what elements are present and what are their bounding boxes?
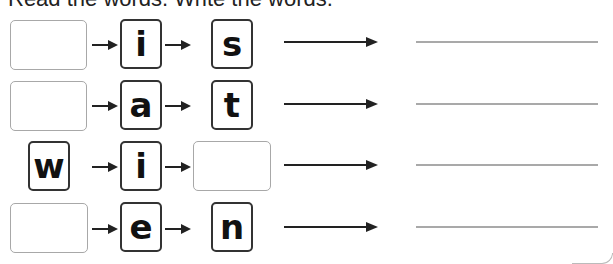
small-arrow-icon [165,39,191,51]
small-arrow-icon [92,161,118,173]
small-arrow-icon [165,100,191,112]
word-row-2: a t [0,80,613,134]
small-arrow-icon [92,100,118,112]
letter-box: a [120,80,162,130]
long-arrow-icon [284,220,380,234]
blank-letter-box[interactable] [10,203,88,253]
word-row-4: e n [0,202,613,256]
long-arrow-icon [284,35,380,49]
write-line[interactable] [416,226,598,228]
letter-box: e [120,202,162,252]
blank-letter-box[interactable] [193,141,271,191]
write-line[interactable] [416,164,598,166]
word-row-3: w i [0,140,613,194]
letter-box: w [28,141,70,191]
small-arrow-icon [165,161,191,173]
write-line[interactable] [416,103,598,105]
long-arrow-icon [284,158,380,172]
small-arrow-icon [165,223,191,235]
page-corner-decoration [572,253,613,264]
letter-box: i [120,141,162,191]
letter-box: n [211,202,253,252]
long-arrow-icon [284,97,380,111]
letter-box: t [211,80,253,130]
write-line[interactable] [416,41,598,43]
small-arrow-icon [92,39,118,51]
word-row-1: i s [0,19,613,73]
letter-box: i [120,19,162,69]
blank-letter-box[interactable] [10,20,87,70]
blank-letter-box[interactable] [10,81,87,131]
small-arrow-icon [92,223,118,235]
letter-box: s [211,19,253,69]
instructions-heading: Read the words. Write the words. [8,0,333,12]
